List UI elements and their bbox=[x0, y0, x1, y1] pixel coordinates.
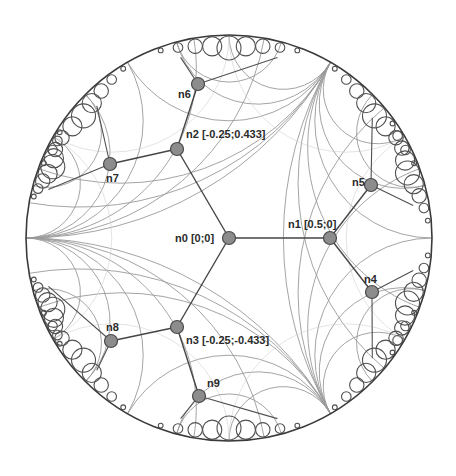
fractal-bubble bbox=[357, 94, 376, 113]
fractal-bubble bbox=[393, 131, 403, 141]
fractal-bubble bbox=[419, 203, 429, 213]
fractal-bubble bbox=[412, 273, 426, 287]
node-n9 bbox=[193, 390, 206, 403]
fractal-bubble bbox=[295, 423, 300, 428]
node-n7 bbox=[104, 158, 117, 171]
geodesic-arc bbox=[29, 62, 330, 207]
geodesic-arc bbox=[128, 62, 331, 121]
fractal-bubble bbox=[31, 194, 36, 199]
fractal-bubble bbox=[121, 405, 126, 410]
node-label-n3: n3 [-0.25;-0.433] bbox=[186, 334, 269, 346]
fractal-bubble bbox=[396, 291, 420, 315]
fractal-bubble bbox=[332, 66, 337, 71]
fractal-bubble bbox=[107, 75, 117, 85]
fractal-bubble bbox=[342, 392, 352, 402]
fractal-bubble bbox=[396, 306, 415, 325]
leaf-branch bbox=[48, 164, 110, 190]
fractal-bubble bbox=[203, 420, 222, 439]
poincare-disk-canvas: n0 [0;0]n1 [0.5;0]n2 [-0.25;0.433]n3 [-0… bbox=[0, 0, 456, 476]
geodesic-arc bbox=[29, 269, 330, 414]
node-label-n6: n6 bbox=[178, 88, 191, 100]
edge-n2-n7 bbox=[110, 149, 177, 164]
node-n1 bbox=[324, 232, 337, 245]
fractal-bubble bbox=[41, 297, 65, 321]
fractal-bubble bbox=[158, 423, 163, 428]
node-n5 bbox=[365, 179, 378, 192]
fractal-bubble bbox=[350, 378, 364, 392]
geodesic-arc bbox=[26, 62, 143, 238]
fractal-bubble bbox=[390, 121, 395, 126]
node-label-n0: n0 [0;0] bbox=[175, 232, 214, 244]
node-n2 bbox=[171, 143, 184, 156]
node-label-n8: n8 bbox=[106, 321, 119, 333]
node-n0 bbox=[223, 232, 236, 245]
fractal-bubble bbox=[236, 420, 255, 439]
fractal-bubble bbox=[236, 37, 255, 56]
node-n3 bbox=[171, 321, 184, 334]
fractal-bubble bbox=[390, 350, 395, 355]
fractal-bubble bbox=[425, 253, 430, 258]
fractal-bubble bbox=[94, 84, 108, 98]
fractal-bubble bbox=[203, 37, 222, 56]
node-n6 bbox=[192, 78, 205, 91]
fractal-bubble bbox=[393, 336, 403, 346]
geodesic-arc bbox=[177, 394, 282, 434]
node-n8 bbox=[105, 335, 118, 348]
geodesic-arc bbox=[357, 95, 426, 188]
fractal-bubble bbox=[412, 189, 426, 203]
edge-n0-n3 bbox=[177, 238, 229, 327]
fractal-bubble bbox=[31, 277, 36, 282]
fractal-bubble bbox=[357, 363, 376, 382]
fractal-bubble bbox=[396, 161, 420, 185]
geodesic-arc bbox=[26, 238, 143, 414]
edge-n0-n2 bbox=[177, 149, 229, 238]
geodesic-arc bbox=[346, 137, 405, 340]
node-label-n5: n5 bbox=[352, 176, 365, 188]
node-label-n9: n9 bbox=[207, 377, 220, 389]
leaf-branch bbox=[199, 396, 277, 419]
node-label-n1: n1 [0.5;0] bbox=[288, 218, 337, 230]
fractal-bubble bbox=[295, 48, 300, 53]
node-n4 bbox=[366, 286, 379, 299]
hyperbolic-diagram: n0 [0;0]n1 [0.5;0]n2 [-0.25;0.433]n3 [-0… bbox=[0, 0, 456, 476]
node-label-n7: n7 bbox=[106, 172, 119, 184]
fractal-bubble bbox=[107, 392, 117, 402]
node-label-n2: n2 [-0.25;0.433] bbox=[186, 128, 266, 140]
node-label-n4: n4 bbox=[364, 273, 378, 285]
edge-n3-n8 bbox=[111, 327, 177, 341]
fractal-bubble bbox=[332, 405, 337, 410]
fractal-bubble bbox=[350, 84, 364, 98]
fractal-bubble bbox=[396, 151, 415, 170]
fractal-bubble bbox=[425, 218, 430, 223]
fractal-bubble bbox=[419, 263, 429, 273]
fractal-bubble bbox=[158, 48, 163, 53]
geodesic-arc bbox=[357, 289, 426, 382]
fractal-bubble bbox=[342, 75, 352, 85]
fractal-bubble bbox=[121, 66, 126, 71]
fractal-bubble bbox=[82, 94, 101, 113]
edge-n1-n5 bbox=[330, 185, 371, 238]
fractal-bubble bbox=[94, 378, 108, 392]
